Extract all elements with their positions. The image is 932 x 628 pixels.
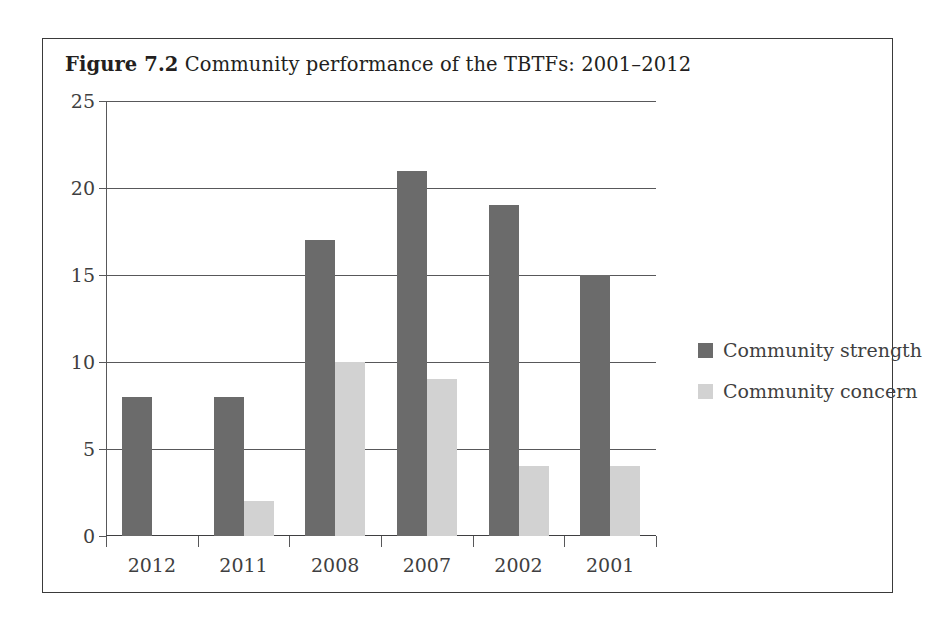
legend-label: Community strength — [723, 339, 922, 361]
x-tick-mark-2002 — [473, 536, 474, 547]
y-tick-label-15: 15 — [71, 264, 95, 286]
legend-swatch-icon — [698, 343, 713, 358]
bar-2012-strength — [122, 397, 152, 536]
bar-2007-strength — [397, 171, 427, 536]
bar-2007-concern — [427, 379, 457, 536]
x-tick-mark-2007 — [381, 536, 382, 547]
y-tick-mark-15 — [99, 275, 106, 276]
chart-plot-area: 0510152025 201220112008200720022001 — [106, 101, 656, 536]
x-tick-mark-end — [656, 536, 657, 547]
y-tick-label-25: 25 — [71, 90, 95, 112]
figure-caption-text: Community performance of the TBTFs: 2001… — [185, 53, 691, 76]
y-tick-label-10: 10 — [71, 351, 95, 373]
x-tick-mark-2011 — [198, 536, 199, 547]
y-tick-label-20: 20 — [71, 177, 95, 199]
bar-2008-concern — [335, 362, 365, 536]
x-tick-label-2008: 2008 — [311, 554, 359, 576]
bar-2002-strength — [489, 205, 519, 536]
bar-2002-concern — [519, 466, 549, 536]
x-tick-mark-2008 — [289, 536, 290, 547]
x-tick-label-2002: 2002 — [494, 554, 542, 576]
bar-2001-strength — [580, 275, 610, 536]
legend-swatch-icon — [698, 384, 713, 399]
figure-caption-label: Figure 7.2 — [65, 53, 178, 76]
x-tick-mark-2012 — [106, 536, 107, 547]
y-axis-line — [106, 101, 107, 536]
gridline-20 — [106, 188, 656, 189]
figure-caption: Figure 7.2 Community performance of the … — [65, 53, 691, 76]
figure-frame: Figure 7.2 Community performance of the … — [42, 38, 893, 593]
gridline-15 — [106, 275, 656, 276]
legend-item-strength[interactable]: Community strength — [698, 339, 922, 361]
y-tick-label-0: 0 — [83, 525, 95, 547]
x-tick-label-2011: 2011 — [219, 554, 267, 576]
y-tick-mark-0 — [99, 536, 106, 537]
y-tick-label-5: 5 — [83, 438, 95, 460]
x-tick-mark-2001 — [564, 536, 565, 547]
bar-2008-strength — [305, 240, 335, 536]
gridline-10 — [106, 362, 656, 363]
chart-legend: Community strengthCommunity concern — [698, 339, 922, 421]
y-tick-mark-20 — [99, 188, 106, 189]
bar-2011-concern — [244, 501, 274, 536]
y-tick-mark-5 — [99, 449, 106, 450]
gridline-5 — [106, 449, 656, 450]
x-tick-label-2001: 2001 — [586, 554, 634, 576]
x-tick-label-2007: 2007 — [403, 554, 451, 576]
bar-2011-strength — [214, 397, 244, 536]
legend-item-concern[interactable]: Community concern — [698, 380, 922, 402]
x-tick-label-2012: 2012 — [128, 554, 176, 576]
y-tick-mark-10 — [99, 362, 106, 363]
gridline-25 — [106, 101, 656, 102]
legend-label: Community concern — [723, 380, 918, 402]
y-tick-mark-25 — [99, 101, 106, 102]
bar-2001-concern — [610, 466, 640, 536]
